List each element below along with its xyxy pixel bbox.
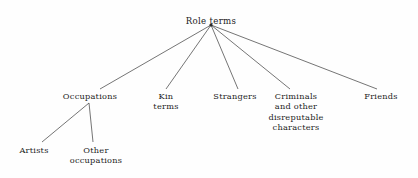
node-role-terms: Role terms xyxy=(186,16,236,26)
edge-root-criminals xyxy=(211,25,290,89)
edge-root-kin-terms xyxy=(166,25,211,89)
node-occupations: Occupations xyxy=(63,91,117,101)
node-artists: Artists xyxy=(19,145,48,155)
tree-edge-layer xyxy=(0,0,418,178)
edge-occupations-artists xyxy=(42,103,89,142)
node-other-occupations: Other occupations xyxy=(70,145,123,166)
node-strangers: Strangers xyxy=(213,91,256,101)
node-criminals-and-other-disreputable-characters: Criminals and other disreputable charact… xyxy=(268,91,323,133)
edge-root-occupations xyxy=(100,25,211,89)
node-kin-terms: Kin terms xyxy=(153,91,178,112)
edge-occupations-other xyxy=(89,103,93,142)
edge-root-friends xyxy=(211,25,377,89)
node-friends: Friends xyxy=(364,91,398,101)
edges-group xyxy=(42,25,377,142)
role-terms-tree-diagram: Role terms Occupations Kin terms Strange… xyxy=(0,0,418,178)
edge-root-strangers xyxy=(211,25,238,89)
